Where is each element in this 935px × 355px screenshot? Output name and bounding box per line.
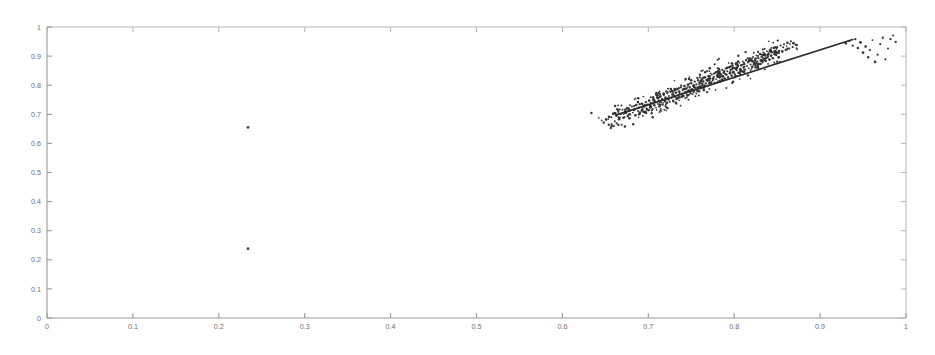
data-point bbox=[650, 96, 652, 98]
data-point bbox=[770, 50, 772, 52]
data-point bbox=[771, 47, 773, 49]
data-point bbox=[679, 97, 681, 99]
data-point bbox=[652, 108, 654, 110]
data-point bbox=[645, 101, 647, 103]
data-point bbox=[688, 78, 690, 80]
data-point bbox=[642, 115, 644, 117]
data-point bbox=[731, 62, 734, 65]
data-point-detached bbox=[869, 49, 871, 51]
data-point bbox=[633, 105, 635, 107]
data-point bbox=[745, 59, 747, 61]
x-axis-tick-label: 0.3 bbox=[300, 322, 310, 331]
data-point bbox=[698, 84, 700, 86]
x-axis-tick-label: 0.6 bbox=[557, 322, 567, 331]
data-point bbox=[747, 74, 749, 76]
x-axis-tick-label: 1 bbox=[904, 322, 908, 331]
data-point bbox=[764, 59, 766, 61]
data-point bbox=[610, 116, 612, 118]
data-point bbox=[702, 80, 705, 83]
data-point bbox=[757, 57, 759, 59]
data-point bbox=[723, 72, 725, 74]
data-point bbox=[672, 100, 674, 102]
plot-background bbox=[0, 0, 935, 355]
data-point bbox=[764, 68, 766, 70]
data-point bbox=[743, 71, 745, 73]
data-point bbox=[629, 104, 631, 106]
data-point bbox=[631, 105, 633, 107]
data-point bbox=[655, 92, 658, 95]
data-point bbox=[741, 70, 743, 72]
data-point bbox=[736, 69, 738, 71]
data-point bbox=[605, 119, 607, 121]
y-axis-tick-label: 0.5 bbox=[31, 168, 41, 177]
data-point bbox=[700, 70, 702, 72]
data-point bbox=[768, 50, 770, 52]
data-point bbox=[750, 58, 752, 60]
data-point bbox=[748, 60, 750, 62]
data-point bbox=[735, 62, 737, 64]
data-point bbox=[772, 57, 774, 59]
data-point bbox=[590, 112, 592, 114]
y-axis-tick-label: 0.4 bbox=[31, 197, 41, 206]
data-point bbox=[689, 76, 691, 78]
data-point bbox=[706, 78, 708, 80]
data-point bbox=[747, 57, 749, 59]
data-point bbox=[729, 71, 731, 73]
data-point bbox=[702, 84, 704, 86]
data-point bbox=[658, 105, 660, 107]
data-point bbox=[689, 87, 691, 89]
data-point-detached bbox=[864, 45, 867, 48]
data-point bbox=[610, 125, 612, 127]
data-point bbox=[644, 111, 647, 114]
data-point bbox=[651, 112, 653, 114]
data-point bbox=[634, 114, 637, 117]
y-axis-tick-label: 1 bbox=[37, 23, 41, 32]
data-point bbox=[624, 108, 627, 111]
data-point bbox=[756, 61, 758, 63]
data-point bbox=[607, 118, 609, 120]
data-point bbox=[667, 88, 669, 90]
data-point bbox=[762, 48, 764, 50]
data-point bbox=[656, 109, 658, 111]
data-point bbox=[757, 64, 759, 66]
y-axis-tick-label: 0.8 bbox=[31, 81, 41, 90]
data-point bbox=[602, 121, 604, 123]
data-point bbox=[613, 112, 616, 115]
data-point bbox=[657, 97, 659, 99]
data-point bbox=[674, 89, 676, 91]
data-point bbox=[641, 108, 643, 110]
data-point bbox=[660, 104, 662, 106]
data-point bbox=[632, 112, 634, 114]
data-point bbox=[660, 108, 662, 110]
data-point bbox=[652, 96, 654, 98]
data-point bbox=[782, 46, 784, 48]
data-point bbox=[608, 124, 610, 126]
data-point bbox=[622, 109, 624, 111]
data-point bbox=[691, 93, 693, 95]
data-point-detached bbox=[889, 38, 891, 40]
data-point bbox=[742, 66, 744, 68]
data-point bbox=[695, 83, 697, 85]
data-point-detached bbox=[884, 58, 886, 60]
x-axis-tick-label: 0.7 bbox=[643, 322, 653, 331]
data-point bbox=[694, 95, 696, 97]
data-point bbox=[739, 68, 741, 70]
data-point bbox=[716, 76, 719, 79]
x-axis-tick-label: 0.8 bbox=[729, 322, 739, 331]
data-point bbox=[768, 58, 771, 61]
data-point bbox=[608, 116, 610, 118]
data-point bbox=[677, 97, 679, 99]
x-axis-tick-label: 0.1 bbox=[128, 322, 138, 331]
data-point bbox=[671, 90, 674, 93]
data-point bbox=[708, 81, 710, 83]
data-point bbox=[735, 67, 737, 69]
data-point bbox=[699, 76, 701, 78]
data-point bbox=[744, 69, 746, 71]
data-point bbox=[697, 79, 699, 81]
data-point bbox=[762, 54, 765, 57]
data-point bbox=[693, 84, 696, 87]
y-axis-tick-label: 0.2 bbox=[31, 255, 41, 264]
data-point bbox=[614, 120, 616, 122]
data-point bbox=[651, 116, 654, 119]
data-point bbox=[678, 99, 680, 101]
